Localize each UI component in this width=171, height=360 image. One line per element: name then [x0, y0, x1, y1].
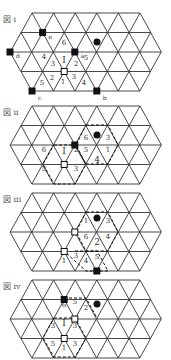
cell-number: 4 — [106, 233, 111, 241]
black-square-marker — [7, 49, 14, 56]
black-square-marker — [39, 29, 46, 36]
cell-number: 5 — [51, 340, 55, 348]
black-square-marker — [71, 49, 78, 56]
white-square-marker — [72, 316, 78, 322]
black-square-marker — [61, 296, 68, 303]
cell-number: 5 — [40, 79, 44, 87]
cell-number: I — [62, 318, 66, 328]
cell-number: 3 — [73, 340, 77, 348]
cell-number: 5 — [73, 298, 77, 306]
cell-number: I — [62, 146, 66, 156]
cell-number: 4 — [94, 155, 100, 165]
cell-number: 4 — [84, 257, 89, 265]
cell-number: 1 — [62, 257, 66, 265]
cell-number: 3 — [106, 134, 110, 142]
cell-number: 5 — [95, 253, 99, 261]
cell-number: 1 — [62, 344, 66, 352]
cell-number: 6 — [84, 134, 89, 142]
white-square-marker — [61, 69, 67, 75]
cell-number: 1 — [61, 78, 65, 86]
cell-number: 2 — [74, 60, 78, 68]
cell-number: 3 — [74, 252, 78, 260]
cell-number: 6 — [62, 39, 67, 47]
cell-number: 3 — [51, 322, 55, 330]
black-circle-marker — [94, 132, 101, 139]
cell-number: 4 — [42, 53, 47, 61]
cell-number: 2 — [50, 74, 54, 82]
vertex-label: e — [49, 33, 53, 40]
white-square-marker — [72, 229, 78, 235]
cell-number: 5 — [84, 146, 88, 154]
white-square-marker — [61, 249, 67, 255]
black-square-marker — [71, 142, 78, 149]
vertex-label: a — [81, 52, 85, 59]
cell-number: 3 — [51, 60, 55, 68]
black-square-marker — [29, 88, 36, 95]
cell-number: 1 — [84, 217, 88, 225]
cell-number: 5 — [84, 54, 88, 62]
cell-number: 1 — [106, 146, 110, 154]
white-square-marker — [61, 336, 67, 342]
cell-number: 6 — [84, 233, 89, 241]
cell-number: 2 — [94, 237, 100, 247]
cell-number: 4 — [82, 79, 87, 87]
vertex-label: c — [38, 94, 42, 101]
cell-number: 3 — [72, 73, 76, 81]
white-square-marker — [61, 162, 67, 168]
black-circle-marker — [94, 215, 101, 222]
triangle-grid: 6I432552134edacb — [0, 13, 171, 93]
cell-number: 5 — [42, 165, 46, 173]
cell-number: 2 — [84, 304, 88, 312]
triangle-grid: 213643451 — [0, 193, 171, 273]
black-circle-marker — [94, 301, 101, 308]
cell-number: 3 — [73, 322, 77, 330]
cell-number: I — [62, 55, 66, 65]
cell-number: 6 — [42, 146, 47, 154]
black-circle-marker — [94, 39, 101, 46]
triangle-grid: I463516253 — [0, 106, 171, 186]
black-square-marker — [93, 88, 100, 95]
vertex-label: d — [16, 52, 20, 59]
cell-number: 3 — [74, 165, 78, 173]
black-square-marker — [93, 268, 100, 275]
triangle-grid: I65233513 — [0, 280, 171, 360]
vertex-label: b — [103, 94, 107, 101]
cell-number: 3 — [106, 217, 110, 225]
